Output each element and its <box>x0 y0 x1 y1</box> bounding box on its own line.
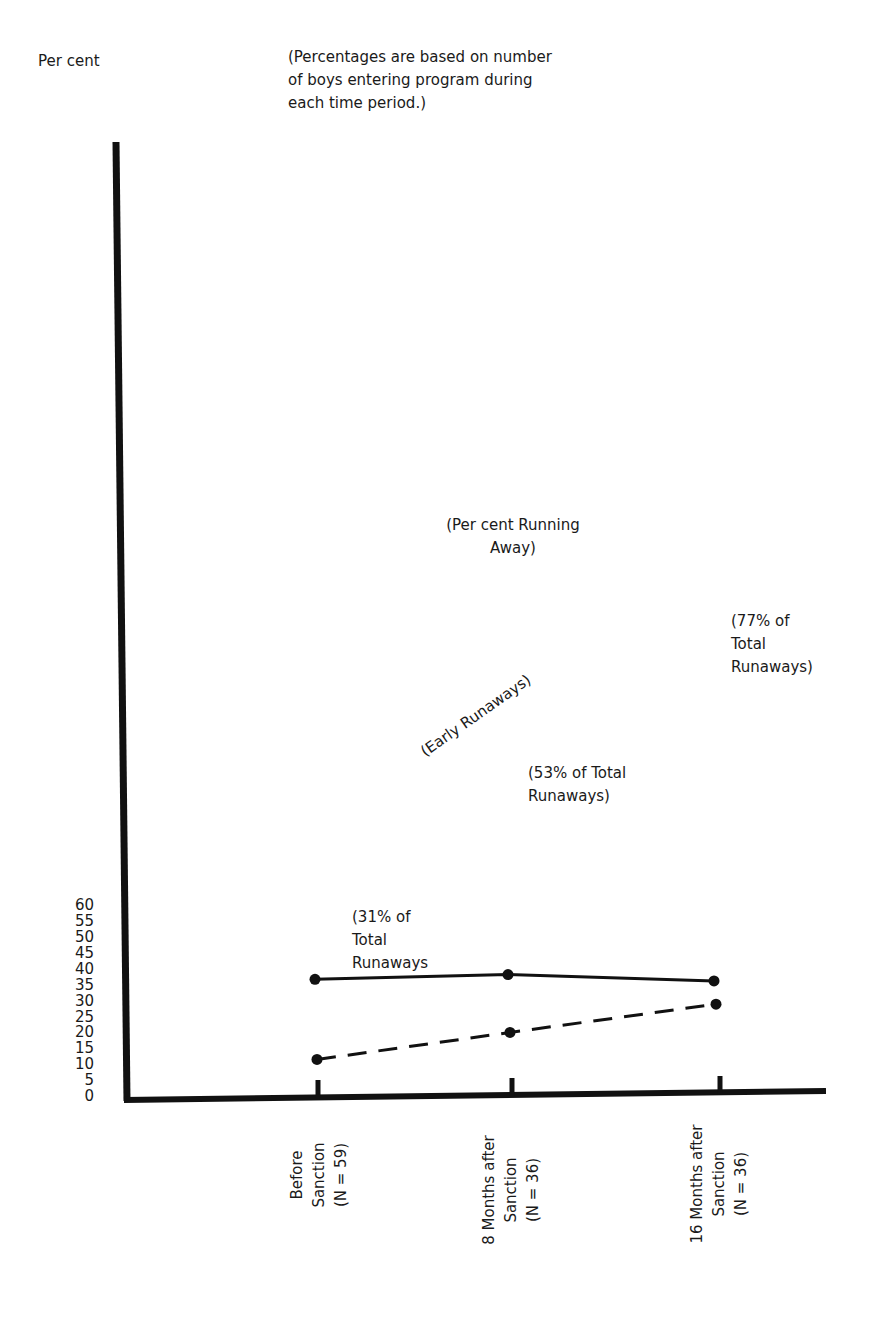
x-category-line: 8 Months after <box>478 1115 500 1265</box>
point-label-31: (31% of Total Runaways <box>352 906 428 975</box>
annotation-line: Runaways) <box>731 656 813 679</box>
data-point <box>503 969 514 980</box>
x-category-line: (N = 59) <box>330 1110 352 1240</box>
running-away-line <box>315 975 714 981</box>
x-category-line: (N = 36) <box>730 1103 752 1265</box>
data-point <box>711 999 722 1010</box>
annotation-line: (31% of <box>352 906 428 929</box>
annotation-line: Runaways <box>352 952 428 975</box>
x-category-line: Before <box>286 1110 308 1240</box>
x-category-line: 16 Months after <box>686 1103 708 1265</box>
annotation-line: (77% of <box>731 610 813 633</box>
annotation-line: Total <box>731 633 813 656</box>
annotation-line: Away) <box>443 537 583 560</box>
x-category-8-months: 8 Months after Sanction (N = 36) <box>478 1115 544 1265</box>
chart-note: (Percentages are based on number of boys… <box>288 46 552 115</box>
x-category-line: Sanction <box>500 1115 522 1265</box>
x-category-line: (N = 36) <box>522 1115 544 1265</box>
data-point <box>312 1054 323 1065</box>
early-runaways-line <box>317 1004 716 1059</box>
annotation-line: Runaways) <box>528 785 626 808</box>
chart-note-line: (Percentages are based on number <box>288 46 552 69</box>
x-category-before-sanction: Before Sanction (N = 59) <box>286 1110 352 1240</box>
chart-note-line: each time period.) <box>288 92 552 115</box>
x-category-line: Sanction <box>308 1110 330 1240</box>
x-category-line: Sanction <box>708 1103 730 1265</box>
y-tick-label: 0 <box>54 1087 94 1105</box>
annotation-line: (Per cent Running <box>443 514 583 537</box>
y-axis-label: Per cent <box>38 52 100 70</box>
point-label-77: (77% of Total Runaways) <box>731 610 813 679</box>
data-point <box>709 975 720 986</box>
series-label-running-away: (Per cent Running Away) <box>443 514 583 560</box>
annotation-line: (53% of Total <box>528 762 626 785</box>
x-category-16-months: 16 Months after Sanction (N = 36) <box>686 1103 752 1265</box>
data-point <box>310 974 321 985</box>
chart-note-line: of boys entering program during <box>288 69 552 92</box>
series-layer <box>310 969 722 1065</box>
annotation-line: Total <box>352 929 428 952</box>
y-axis <box>116 142 127 1101</box>
data-point <box>505 1027 516 1038</box>
point-label-53: (53% of Total Runaways) <box>528 762 626 808</box>
